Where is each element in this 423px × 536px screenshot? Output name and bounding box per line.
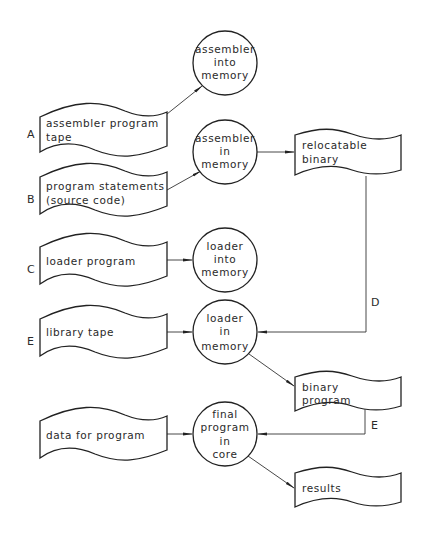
input-tape-a: A assembler program tape [27, 103, 167, 156]
process-text-line: into [214, 56, 237, 68]
output-text-line: results [302, 482, 341, 494]
connector-label-e: E [371, 419, 379, 432]
process-assembler-in-memory: assembler in memory [193, 120, 257, 184]
process-text-line: loader [207, 240, 244, 252]
connector-label-d: D [371, 296, 380, 309]
connector-d-relocatable-to-loader [258, 176, 366, 332]
process-text-line: in [220, 145, 231, 157]
process-text-line: core [212, 448, 237, 460]
arrow-loader-to-binary-program [249, 354, 294, 386]
output-text-line: binary [302, 153, 339, 165]
process-assembler-into-memory: assembler into memory [193, 31, 257, 95]
input-label-c: C [27, 263, 35, 276]
output-binary-program: binary program [295, 371, 401, 411]
input-label-b: B [27, 193, 35, 206]
output-relocatable-binary: relocatable binary [295, 129, 401, 175]
process-loader-in-memory: loader in memory [193, 300, 257, 364]
process-text-line: into [214, 253, 237, 265]
input-text-line: (source code) [46, 194, 126, 206]
output-text-line: program [302, 394, 351, 406]
process-text-line: loader [207, 312, 244, 324]
input-tape-c: C loader program [27, 233, 167, 286]
process-text-line: in [220, 325, 231, 337]
input-text-line: loader program [46, 255, 136, 267]
arrow-tape-b-to-assembler-in-memory [167, 171, 201, 190]
arrow-tape-a-to-assembler-into-memory [167, 86, 202, 114]
process-text-line: in [220, 435, 231, 447]
input-text-line: tape [46, 131, 72, 143]
input-text-line: data for program [46, 429, 145, 441]
process-loader-into-memory: loader into memory [193, 228, 257, 292]
process-text-line: memory [201, 69, 248, 81]
output-results: results [295, 467, 401, 507]
flowchart: A assembler program tape B program state… [0, 0, 423, 536]
process-text-line: program [200, 421, 249, 433]
process-text-line: memory [201, 340, 248, 352]
input-tape-b: B program statements (source code) [27, 163, 167, 216]
connector-e-binary-to-final-program [258, 407, 365, 434]
process-text-line: assembler [195, 132, 255, 144]
process-text-line: assembler [195, 43, 255, 55]
process-text-line: memory [201, 266, 248, 278]
arrow-final-program-to-results [248, 456, 294, 488]
input-text-line: library tape [46, 326, 114, 338]
process-text-line: memory [201, 158, 248, 170]
input-tape-e: E library tape [27, 305, 167, 358]
process-text-line: final [212, 408, 238, 420]
input-text-line: assembler program [46, 117, 159, 129]
input-label-e: E [27, 335, 35, 348]
input-tape-data: data for program [40, 407, 167, 460]
output-text-line: binary [302, 381, 339, 393]
input-label-a: A [27, 128, 35, 141]
output-text-line: relocatable [302, 139, 367, 151]
process-final-program-in-core: final program in core [193, 402, 257, 466]
input-text-line: program statements [46, 180, 165, 192]
